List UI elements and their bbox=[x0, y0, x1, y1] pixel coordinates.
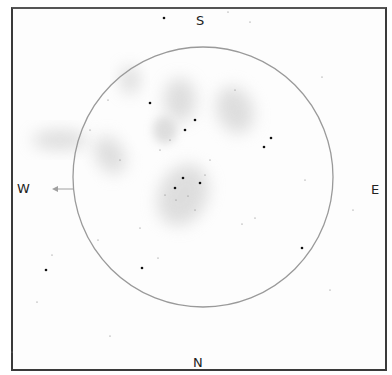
star bbox=[164, 194, 165, 195]
star bbox=[182, 177, 185, 180]
star bbox=[227, 11, 228, 12]
star bbox=[169, 139, 170, 140]
star bbox=[36, 301, 37, 302]
cardinal-south-label: S bbox=[196, 13, 204, 28]
star bbox=[141, 267, 144, 270]
star bbox=[184, 129, 187, 132]
star bbox=[107, 99, 108, 100]
star bbox=[204, 174, 205, 175]
star bbox=[254, 217, 255, 218]
star bbox=[249, 21, 250, 22]
drift-arrow bbox=[52, 186, 73, 192]
star-field bbox=[0, 0, 392, 375]
star bbox=[234, 89, 235, 90]
star bbox=[187, 195, 188, 196]
star bbox=[301, 247, 304, 250]
star bbox=[109, 335, 110, 336]
star bbox=[321, 76, 322, 77]
star bbox=[241, 223, 242, 224]
star bbox=[263, 146, 266, 149]
star bbox=[97, 239, 98, 240]
star bbox=[270, 137, 273, 140]
star bbox=[352, 209, 353, 210]
star bbox=[209, 159, 210, 160]
cardinal-west-label: W bbox=[17, 181, 30, 196]
star bbox=[11, 351, 12, 352]
star bbox=[174, 187, 177, 190]
cardinal-north-label: N bbox=[193, 355, 203, 370]
star bbox=[163, 17, 166, 20]
star bbox=[157, 257, 158, 258]
nebulosity bbox=[32, 66, 260, 234]
star bbox=[194, 119, 197, 122]
star bbox=[175, 199, 176, 200]
star bbox=[139, 227, 140, 228]
star bbox=[159, 149, 160, 150]
star bbox=[149, 102, 152, 105]
star bbox=[119, 159, 120, 160]
star bbox=[199, 182, 202, 185]
star bbox=[329, 289, 330, 290]
star bbox=[194, 209, 195, 210]
star bbox=[45, 269, 48, 272]
star bbox=[51, 254, 52, 255]
star bbox=[89, 129, 90, 130]
cardinal-east-label: E bbox=[371, 182, 379, 197]
star bbox=[304, 179, 305, 180]
